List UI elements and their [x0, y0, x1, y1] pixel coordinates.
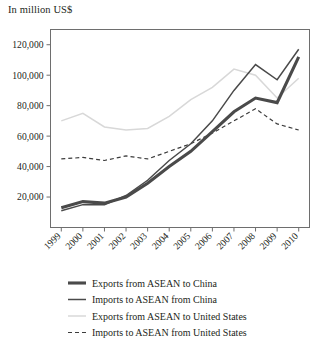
x-tick-label: 2009: [257, 230, 278, 251]
chart-container: In million US$ 20,00040,00060,00080,0001…: [0, 0, 329, 348]
y-tick-label: 120,000: [12, 39, 43, 50]
x-tick-label: 2004: [149, 230, 170, 251]
x-tick-label: 1999: [41, 230, 62, 251]
y-axis-ticks: 20,00040,00060,00080,000100,000120,000: [12, 39, 50, 202]
plot-frame: [51, 30, 310, 228]
x-tick-label: 2002: [106, 230, 127, 251]
y-tick-label: 60,000: [17, 131, 44, 142]
series-line-exports_asean_china: [61, 57, 298, 208]
x-tick-label: 2005: [171, 230, 192, 251]
y-tick-label: 100,000: [12, 70, 43, 81]
x-tick-label: 2006: [192, 230, 213, 251]
y-tick-label: 20,000: [17, 191, 44, 202]
x-tick-label: 2001: [85, 230, 106, 251]
series-lines: [61, 49, 298, 210]
x-tick-label: 2007: [214, 230, 235, 251]
chart-legend: Exports from ASEAN to ChinaImports to AS…: [68, 278, 247, 339]
y-tick-label: 40,000: [17, 161, 44, 172]
series-line-imports_asean_china: [61, 49, 298, 210]
x-tick-label: 2008: [236, 230, 257, 251]
y-tick-label: 80,000: [17, 100, 44, 111]
legend-label-exports_asean_china: Exports from ASEAN to China: [92, 278, 218, 289]
line-chart: 20,00040,00060,00080,000100,000120,000 1…: [0, 0, 329, 348]
legend-label-imports_asean_us: Imports to ASEAN from United States: [92, 327, 247, 338]
legend-label-imports_asean_china: Imports to ASEAN from China: [92, 294, 218, 305]
legend-label-exports_asean_us: Exports from ASEAN to United States: [92, 311, 247, 322]
x-axis-ticks: 1999200020012002200320042005200620072008…: [41, 228, 300, 252]
x-tick-label: 2010: [279, 230, 300, 251]
x-tick-label: 2003: [128, 230, 149, 251]
x-tick-label: 2000: [63, 230, 84, 251]
